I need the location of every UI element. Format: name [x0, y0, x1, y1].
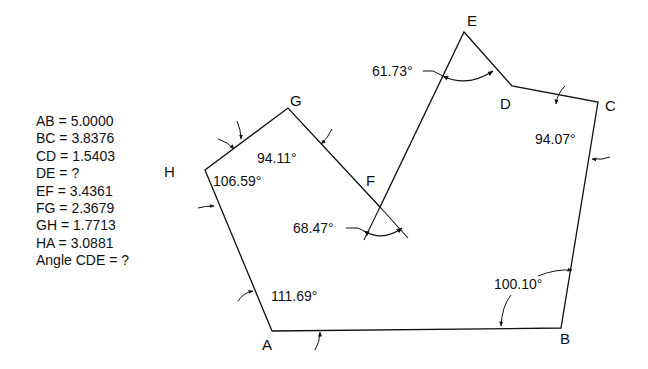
vertex-label-e: E — [467, 12, 477, 29]
angle-label-g: 94.11° — [257, 150, 297, 166]
arrow-mark-ha-2 — [238, 291, 253, 301]
given-de: DE = ? — [36, 165, 129, 182]
angle-label-a: 111.69° — [271, 288, 317, 304]
vertex-label-c: C — [605, 97, 616, 114]
given-cd: CD = 1.5403 — [36, 148, 129, 165]
angle-arc-e — [443, 71, 493, 81]
leader-f — [346, 228, 364, 231]
vertex-label-d: D — [500, 95, 511, 112]
arrow-mark-hg-2 — [237, 121, 241, 139]
arrow-mark-gf — [321, 129, 332, 144]
angle-label-b: 100.10° — [494, 276, 542, 292]
given-angle-cde: Angle CDE = ? — [36, 252, 129, 269]
arrow-mark-cb — [592, 157, 610, 159]
given-ef: EF = 3.4361 — [36, 183, 129, 200]
given-bc: BC = 3.8376 — [36, 130, 129, 147]
arrow-mark-b-bc — [538, 270, 572, 276]
angle-label-c: 94.07° — [535, 131, 576, 147]
angle-label-e: 61.73° — [372, 63, 413, 79]
vertex-label-f: F — [366, 172, 375, 189]
vertex-label-a: A — [262, 336, 272, 353]
vertex-label-g: G — [290, 92, 302, 109]
given-values-list: AB = 5.0000 BC = 3.8376 CD = 1.5403 DE =… — [36, 113, 129, 270]
given-ab: AB = 5.0000 — [36, 113, 129, 130]
arrow-mark-b-ab — [501, 295, 511, 326]
angle-label-f: 68.47° — [293, 220, 334, 236]
vertex-label-h: H — [164, 163, 175, 180]
angle-label-h: 106.59° — [213, 173, 261, 189]
leader-e — [423, 71, 443, 76]
given-ha: HA = 3.0881 — [36, 235, 129, 252]
arrow-mark-hg-1 — [218, 139, 234, 149]
given-fg: FG = 2.3679 — [36, 200, 129, 217]
given-gh: GH = 1.7713 — [36, 217, 129, 234]
arrow-mark-ab — [315, 332, 320, 350]
arrow-mark-ha — [198, 206, 214, 208]
vertex-label-b: B — [560, 330, 570, 347]
